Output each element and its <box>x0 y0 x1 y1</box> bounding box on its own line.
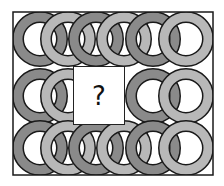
question-mark: ? <box>92 81 106 111</box>
missing-piece-box[interactable]: ? <box>73 66 125 125</box>
